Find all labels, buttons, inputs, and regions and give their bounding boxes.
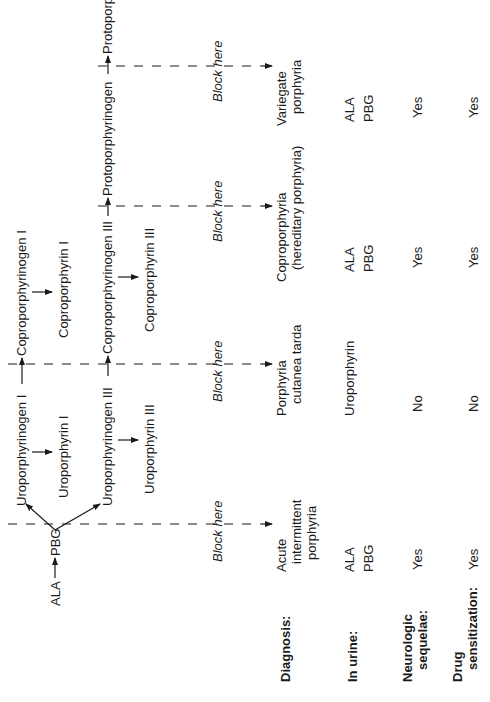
label-coproporphyrin-i: Coproporphyrin I	[56, 241, 71, 338]
urine-col-2: Uroporphyrin	[342, 341, 357, 416]
label-protoporphyrin: Protoporphyrin	[100, 0, 115, 54]
diagnosis-variegate-porphyria: Variegate porphyria	[274, 60, 304, 126]
block-here-label-1: Block here	[210, 501, 225, 562]
neuro-col-1: Yes	[410, 549, 425, 570]
drug-col-1: Yes	[466, 549, 481, 570]
block-here-label-3: Block here	[210, 181, 225, 242]
block-here-label-2: Block here	[210, 341, 225, 402]
urine-col-1: ALA PBG	[342, 545, 376, 572]
row-label-neurologic-sequelae: Neurologic sequelae:	[400, 610, 430, 682]
diagnosis-porphyria-cutanea-tarda: Porphyria cutanea tarda	[274, 324, 304, 416]
label-pbg: PBG	[48, 529, 63, 556]
label-ala: ALA	[48, 581, 63, 606]
neuro-col-4: Yes	[410, 97, 425, 118]
label-uroporphyrin-iii: Uroporphyrin III	[142, 404, 157, 494]
label-coproporphyrin-iii: Coproporphyrin III	[142, 228, 157, 332]
label-uroporphyrin-i: Uroporphyrin I	[56, 416, 71, 498]
label-coproporphyrinogen-iii: Coproporphyrinogen III	[100, 221, 115, 354]
row-label-drug-sensitization: Drug sensitization:	[450, 587, 480, 682]
block-here-label-4: Block here	[210, 41, 225, 102]
label-protoporphyrinogen: Protoporphyrinogen	[100, 82, 115, 196]
label-coproporphyrinogen-i: Coproporphyrinogen I	[14, 230, 29, 356]
urine-col-3: ALA PBG	[342, 245, 376, 272]
diagnosis-acute-intermittent-porphyria: Acute intermittent porphyria	[274, 500, 319, 572]
urine-col-4: ALA PBG	[342, 95, 376, 122]
drug-col-4: Yes	[466, 97, 481, 118]
drug-col-3: Yes	[466, 247, 481, 268]
arrow-pbg-to-uro-i	[26, 504, 55, 530]
row-label-in-urine: In urine:	[345, 631, 360, 682]
arrow-pbg-to-uro-iii	[55, 504, 100, 530]
neuro-col-3: Yes	[410, 247, 425, 268]
diagnosis-coproporphyria: Coproporphyria (hereditary porphyria)	[274, 146, 304, 282]
label-uroporphyrinogen-iii: Uroporphyrinogen III	[100, 387, 115, 506]
neuro-col-2: No	[410, 395, 425, 412]
drug-col-2: No	[466, 395, 481, 412]
porphyria-pathway-figure: ALA PBG Uroporphyrinogen I Uroporphyrin …	[0, 0, 490, 702]
row-label-diagnosis: Diagnosis:	[278, 616, 293, 682]
label-uroporphyrinogen-i: Uroporphyrinogen I	[14, 395, 29, 506]
